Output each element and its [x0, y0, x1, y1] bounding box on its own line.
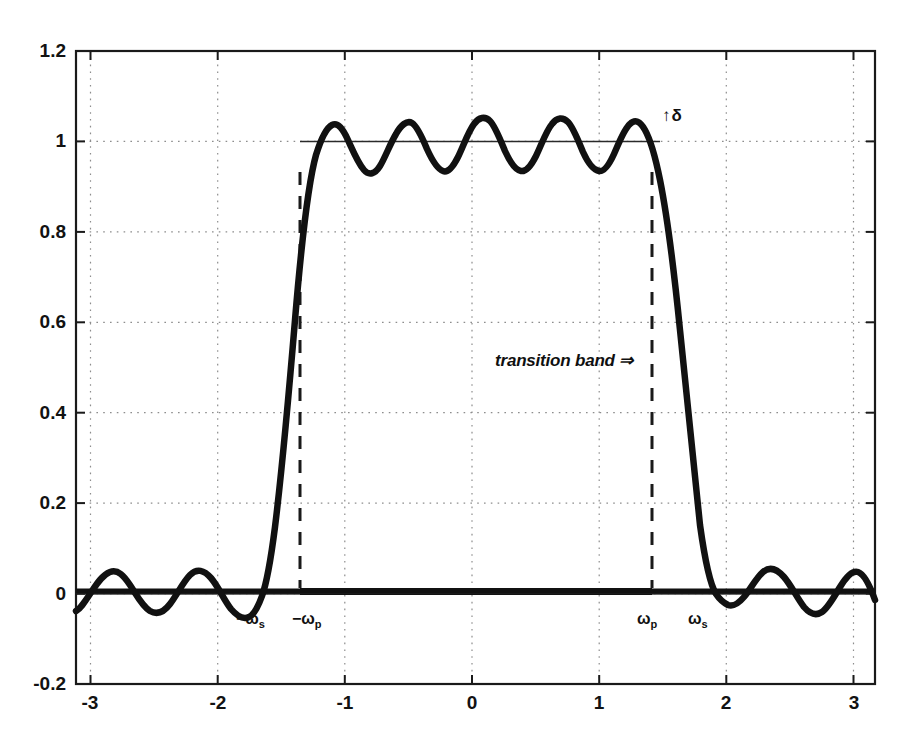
filter-response-figure: 1.2 1 0.8 0.6 0.4 0.2 0 -0.2 -3 -2 -1 0 …	[0, 0, 914, 751]
ytick-label-1: 1	[14, 130, 66, 152]
ytick-label-0.4: 0.4	[14, 402, 66, 424]
ytick-label-1.2: 1.2	[14, 40, 66, 62]
neg-omega-s-subscript: s	[259, 618, 265, 630]
neg-omega-p-symbol: −ω	[292, 610, 315, 627]
neg-omega-s-label: −ωs	[236, 611, 265, 627]
delta-annotation: ↑δ	[662, 106, 683, 126]
xtick-label-1: 1	[594, 692, 605, 714]
transition-band-annotation: transition band ⇒	[495, 350, 633, 371]
pos-omega-s-label: ωs	[688, 611, 708, 627]
ytick-label-0: 0	[14, 583, 66, 605]
ytick-label-0.8: 0.8	[14, 221, 66, 243]
pos-omega-s-subscript: s	[702, 618, 708, 630]
neg-omega-s-symbol: −ω	[236, 610, 259, 627]
ideal-response-zero-band	[76, 592, 875, 594]
plot-canvas	[0, 0, 914, 751]
xtick-label--2: -2	[210, 692, 227, 714]
pos-omega-p-label: ωp	[637, 611, 657, 627]
xtick-label-0: 0	[467, 692, 478, 714]
pos-omega-p-symbol: ω	[637, 610, 651, 627]
xtick-label-2: 2	[721, 692, 732, 714]
ytick-label-0.6: 0.6	[14, 311, 66, 333]
ytick-label--0.2: -0.2	[8, 673, 66, 695]
neg-omega-p-label: −ωp	[292, 611, 322, 627]
xtick-label-3: 3	[849, 692, 860, 714]
filter-magnitude-curve	[76, 118, 875, 618]
neg-omega-p-subscript: p	[315, 618, 322, 630]
pos-omega-p-subscript: p	[651, 618, 658, 630]
xtick-label--1: -1	[337, 692, 354, 714]
ytick-label-0.2: 0.2	[14, 492, 66, 514]
pos-omega-s-symbol: ω	[688, 610, 702, 627]
xtick-label--3: -3	[82, 692, 99, 714]
